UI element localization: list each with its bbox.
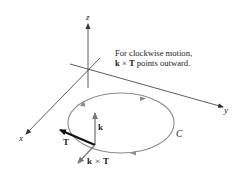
- kxt-times: ×: [95, 156, 100, 166]
- vector-k-label: k: [98, 122, 103, 132]
- curve-arrow-top-icon: [140, 97, 146, 102]
- x-axis: [26, 58, 100, 134]
- x-axis-label: x: [18, 133, 23, 143]
- annotation-line-2: k × T points outward.: [115, 58, 192, 68]
- curve-label: C: [176, 129, 183, 139]
- diagram-canvas: z y x C k T k×T: [0, 0, 235, 178]
- annotation-line-1: For clockwise motion,: [115, 48, 192, 58]
- y-axis: [70, 64, 223, 107]
- annotation: For clockwise motion, k × T points outwa…: [115, 48, 192, 68]
- annotation-times: ×: [120, 58, 129, 68]
- kxt-t: T: [103, 156, 109, 166]
- kxt-k: k: [87, 156, 92, 166]
- curve-arrow-bottom-icon: [130, 151, 136, 156]
- z-axis-label: z: [85, 12, 90, 22]
- vector-t-label: T: [63, 137, 69, 147]
- y-axis-label: y: [223, 105, 228, 115]
- vector-k-cross-t-label: k×T: [87, 156, 109, 166]
- annotation-rest: points outward.: [135, 58, 191, 68]
